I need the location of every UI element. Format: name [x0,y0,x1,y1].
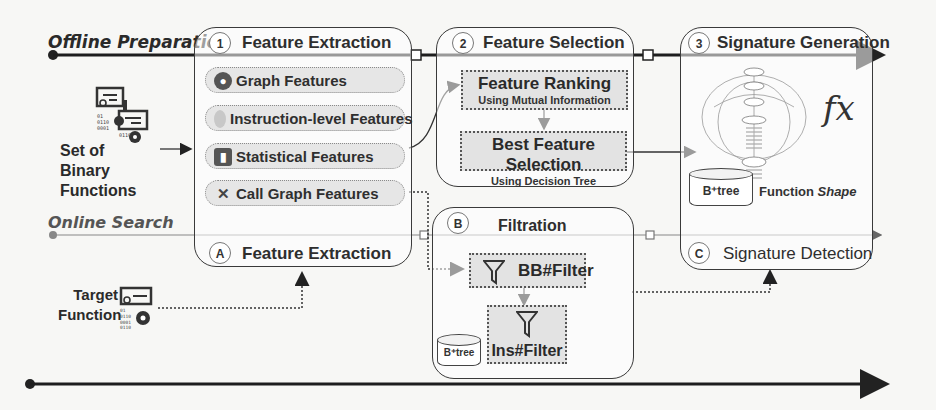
step-C-badge: C [688,242,710,264]
svg-text:01: 01 [120,308,126,313]
best-feature-selection-box: Best Feature Selection Using Decision Tr… [460,131,627,171]
online-junction-1 [420,231,428,239]
binary-set-label: Set of Binary Functions [60,141,136,201]
feature-ranking-box: Feature Ranking Using Mutual Information [461,70,628,110]
best-feature-selection-title: Best Feature Selection [462,135,625,175]
online-junction-2 [646,231,654,239]
signature-generation-title: Signature Generation [717,33,890,53]
signature-btree-label: B⁺tree [689,184,753,198]
function-shape-label: Function Shape [759,184,857,199]
filtration-to-detection-arrow [632,272,770,292]
ins-filter-funnel-icon [489,310,565,342]
statistics-icon: ▮ [214,148,232,166]
ins-filter-label: Ins#Filter [489,342,565,360]
feature-item-instruction: Instruction-level Features [205,105,405,131]
bb-filter-box: BB#Filter [469,253,586,288]
feature-item-call-graph: ✕Call Graph Features [205,180,405,206]
function-shape-graph [694,62,814,182]
offline-junction-1 [411,50,421,60]
fx-symbol: fx [823,88,855,128]
online-lane-label: Online Search [48,213,174,232]
svg-text:0110: 0110 [119,132,131,138]
graph-icon: ● [214,72,232,90]
feature-selection-title: Feature Selection [483,33,625,53]
feature-item-statistical: ▮Statistical Features [205,143,405,169]
online-feature-extraction-title: Feature Extraction [242,244,391,264]
binary-files-icon: 01 0110 0001 0110 [95,85,157,147]
step-1-badge: 1 [209,32,231,54]
target-to-extraction-arrow [158,274,302,308]
offline-junction-2 [643,50,653,60]
best-feature-selection-subtitle: Using Decision Tree [462,175,625,187]
ins-filter-box: Ins#Filter [487,305,567,364]
bb-filter-label: BB#Filter [518,261,594,281]
filtration-btree-label: B⁺tree [437,347,481,358]
feature-item-graph: ●Graph Features [205,67,405,93]
svg-text:0001: 0001 [97,125,109,131]
signature-detection-title: Signature Detection [723,244,872,264]
feature-ranking-title: Feature Ranking [463,74,626,94]
step-B-badge: B [447,212,469,234]
svg-text:0110: 0110 [120,325,131,330]
step-3-badge: 3 [688,32,710,54]
step-A-badge: A [209,242,231,264]
feature-extraction-title: Feature Extraction [242,33,391,53]
filtration-btree-db: B⁺tree [437,334,481,366]
bb-filter-funnel-icon [483,259,505,289]
fingerprint-icon [214,110,226,128]
feature-ranking-subtitle: Using Mutual Information [463,94,626,106]
signature-btree-db: B⁺tree [689,168,753,206]
target-function-label: Target Function [58,285,118,325]
step-2-badge: 2 [452,32,474,54]
filtration-title: Filtration [498,217,566,235]
target-file-icon: 01 0110 0001 0110 [119,286,155,330]
call-graph-icon: ✕ [214,185,232,203]
svg-text:0110: 0110 [120,314,131,319]
